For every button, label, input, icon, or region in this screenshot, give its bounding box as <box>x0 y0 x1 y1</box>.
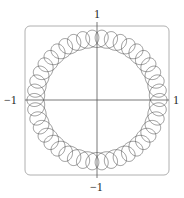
plot-canvas <box>0 0 184 198</box>
x-tick-label-left: −1 <box>4 94 17 106</box>
y-tick-label-top: 1 <box>94 8 100 20</box>
y-tick-label-bottom: −1 <box>90 181 103 193</box>
x-tick-label-right: 1 <box>173 94 179 106</box>
